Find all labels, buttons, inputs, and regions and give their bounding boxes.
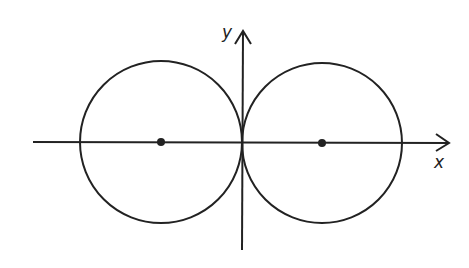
x-axis-label: x	[433, 152, 445, 172]
left-circle-center-point	[157, 138, 165, 146]
diagram-canvas: y x	[0, 0, 469, 268]
y-axis-label: y	[221, 22, 233, 42]
right-circle-center-point	[318, 139, 326, 147]
